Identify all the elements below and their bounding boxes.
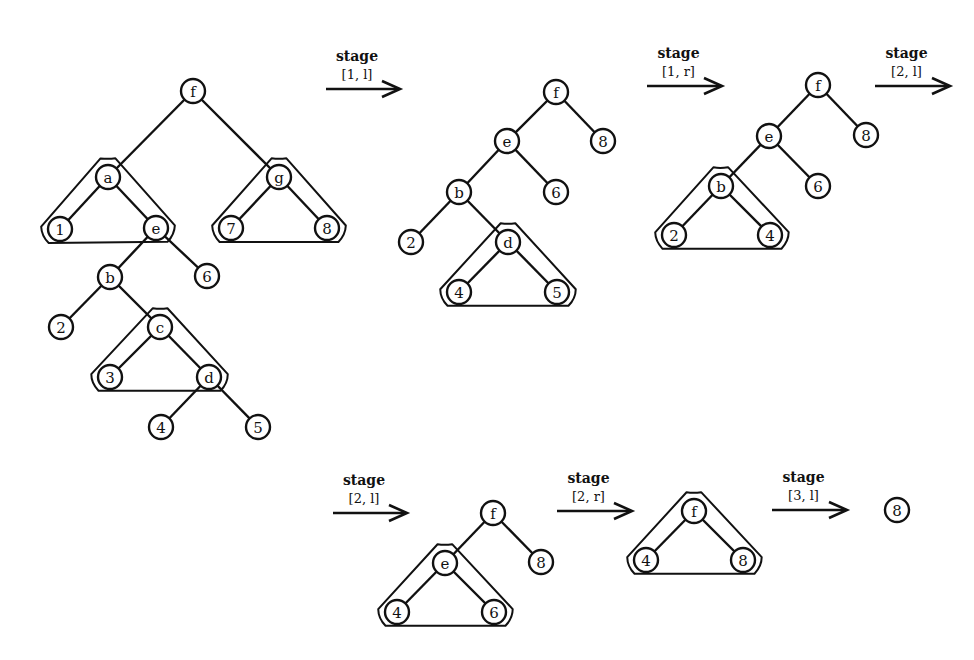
tree-node: 6 [544, 180, 568, 204]
tree-node: 3 [98, 365, 122, 389]
node-label: e [441, 555, 450, 573]
tree-node: 2 [399, 230, 423, 254]
node-label: 6 [813, 178, 823, 196]
node-label: d [204, 369, 214, 387]
stage-label: stage [885, 45, 927, 61]
tree-node: b [98, 265, 122, 289]
tree-node: 8 [591, 129, 615, 153]
tree-node: 4 [385, 600, 409, 624]
node-label: 8 [861, 127, 871, 145]
tree-node: 8 [731, 548, 755, 572]
tree-node: 8 [885, 498, 909, 522]
edge-layer [60, 85, 866, 612]
tree-node: e [757, 124, 781, 148]
tree-node: b [709, 174, 733, 198]
node-label: 3 [105, 369, 115, 387]
node-label: 2 [669, 227, 679, 245]
node-label: e [503, 133, 512, 151]
stage-arrow: stage[2, l] [333, 472, 407, 521]
node-label: 2 [406, 234, 416, 252]
tree-node: e [433, 551, 457, 575]
tree-node: e [144, 216, 168, 240]
stage-label: stage [336, 48, 378, 64]
stage-label: stage [343, 472, 385, 488]
tree-node: 5 [246, 415, 270, 439]
stage-arrow: stage[3, l] [772, 469, 847, 518]
node-label: 1 [55, 221, 65, 239]
node-label: 2 [56, 319, 66, 337]
tree-node: 4 [634, 548, 658, 572]
stage-index: [2, l] [349, 491, 380, 506]
stage-index: [1, l] [342, 67, 373, 82]
node-label: b [105, 269, 115, 287]
tree-node: 2 [662, 223, 686, 247]
node-label: 5 [253, 419, 263, 437]
tree-node: f [181, 79, 205, 103]
tree-node: d [496, 230, 520, 254]
arrow-layer: stage[1, l]stage[1, r]stage[2, l]stage[2… [326, 45, 950, 521]
tree-node: 8 [315, 216, 339, 240]
stage-label: stage [657, 45, 699, 61]
node-label: c [156, 319, 164, 337]
stage-arrow: stage[1, l] [326, 48, 400, 97]
tree-reduction-diagram: fag1e78b62c3d45fe8b62d45fe8b624fe846f488… [0, 0, 974, 660]
node-label: 7 [226, 220, 236, 238]
node-label: 6 [489, 604, 499, 622]
node-label: 5 [552, 284, 562, 302]
tree-node: g [267, 165, 291, 189]
node-label: d [503, 234, 513, 252]
tree-edge [193, 91, 279, 177]
stage-label: stage [782, 469, 824, 485]
node-label: 8 [738, 552, 748, 570]
stage-arrow: stage[1, r] [647, 45, 722, 94]
tree-node: 4 [149, 415, 173, 439]
tree-node: 6 [195, 264, 219, 288]
tree-node: 4 [447, 280, 471, 304]
stage-index: [2, r] [572, 489, 605, 504]
node-label: e [152, 220, 161, 238]
tree-node: e [495, 129, 519, 153]
node-label: 4 [156, 419, 166, 437]
stage-index: [2, l] [891, 64, 922, 79]
tree-node: f [544, 80, 568, 104]
node-label: b [716, 178, 726, 196]
tree-edge [108, 91, 193, 177]
tree-node: 6 [482, 600, 506, 624]
tree-node: 5 [545, 280, 569, 304]
node-label: a [104, 169, 113, 187]
tree-node: d [197, 365, 221, 389]
tree-node: 6 [806, 174, 830, 198]
node-label: 8 [322, 220, 332, 238]
stage-index: [1, r] [662, 64, 695, 79]
node-layer: fag1e78b62c3d45fe8b62d45fe8b624fe846f488 [48, 73, 909, 624]
stage-label: stage [567, 470, 609, 486]
node-label: b [454, 184, 464, 202]
node-label: e [765, 128, 774, 146]
tree-node: 8 [529, 550, 553, 574]
stage-index: [3, l] [788, 488, 819, 503]
node-label: 4 [454, 284, 464, 302]
node-label: 8 [536, 554, 546, 572]
node-label: 4 [765, 227, 775, 245]
tree-node: f [481, 501, 505, 525]
tree-node: 7 [219, 216, 243, 240]
tree-node: c [148, 315, 172, 339]
tree-node: b [447, 180, 471, 204]
stage-arrow: stage[2, l] [875, 45, 950, 94]
tree-node: 2 [49, 315, 73, 339]
stage-arrow: stage[2, r] [557, 470, 632, 519]
node-label: 4 [392, 604, 402, 622]
node-label: 6 [202, 268, 212, 286]
node-label: 4 [641, 552, 651, 570]
tree-node: f [682, 499, 706, 523]
tree-node: a [96, 165, 120, 189]
tree-node: 8 [854, 123, 878, 147]
tree-node: 1 [48, 217, 72, 241]
node-label: g [274, 169, 284, 187]
tree-node: 4 [758, 223, 782, 247]
tree-node: f [806, 73, 830, 97]
node-label: 6 [551, 184, 561, 202]
node-label: 8 [892, 502, 902, 520]
node-label: 8 [598, 133, 608, 151]
